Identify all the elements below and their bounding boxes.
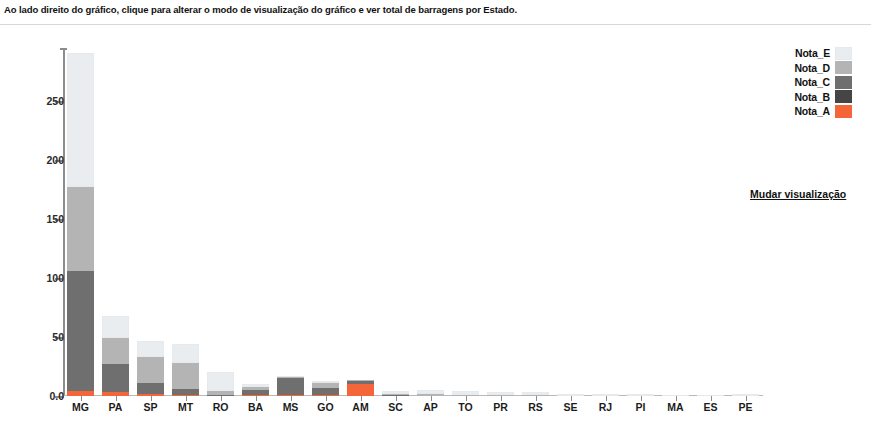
- change-visualization-link[interactable]: Mudar visualização: [750, 188, 846, 200]
- chart-plot-area: 0.050100150200250 MGPASPMTROBAMSGOAMSCAP…: [0, 26, 871, 444]
- instruction-text: Ao lado direito do gráfico, clique para …: [4, 4, 517, 15]
- header-divider: [0, 24, 871, 25]
- bar-segment-MS-Nota_C[interactable]: [277, 378, 304, 395]
- chart-legend: Nota_ENota_DNota_CNota_BNota_A: [752, 46, 852, 119]
- bar-segment-PA-Nota_E[interactable]: [102, 316, 129, 338]
- bar-series-group: [63, 26, 763, 396]
- x-axis-label-MG: MG: [63, 401, 98, 413]
- bar-segment-PA-Nota_D[interactable]: [102, 338, 129, 364]
- bar-segment-SP-Nota_E[interactable]: [137, 341, 164, 358]
- bar-segment-MT-Nota_D[interactable]: [172, 363, 199, 389]
- bar-AM[interactable]: [347, 380, 374, 397]
- x-axis-label-TO: TO: [448, 401, 483, 413]
- legend-item-Nota_C[interactable]: Nota_C: [752, 75, 852, 90]
- bar-segment-MG-Nota_D[interactable]: [67, 187, 94, 271]
- bar-segment-MG-Nota_C[interactable]: [67, 271, 94, 391]
- y-tick-label: 200: [24, 154, 64, 166]
- bar-segment-PA-Nota_C[interactable]: [102, 364, 129, 392]
- y-tick-label: 100: [24, 272, 64, 284]
- y-tick-label: 250: [24, 95, 64, 107]
- bar-segment-SP-Nota_C[interactable]: [137, 383, 164, 394]
- legend-label: Nota_D: [794, 62, 830, 74]
- legend-swatch-Nota_A: [835, 105, 852, 118]
- bar-segment-SP-Nota_D[interactable]: [137, 357, 164, 383]
- legend-label: Nota_A: [794, 105, 830, 117]
- x-axis-label-ES: ES: [693, 401, 728, 413]
- bar-MS[interactable]: [277, 376, 304, 396]
- legend-swatch-Nota_B: [835, 90, 852, 103]
- legend-swatch-Nota_E: [835, 47, 852, 60]
- x-axis-label-PE: PE: [728, 401, 763, 413]
- x-axis-label-RS: RS: [518, 401, 553, 413]
- y-tick-label: 0.0: [24, 390, 64, 402]
- bar-MG[interactable]: [67, 53, 94, 396]
- x-axis-label-AP: AP: [413, 401, 448, 413]
- header-bar: Ao lado direito do gráfico, clique para …: [0, 0, 871, 26]
- x-axis-label-SC: SC: [378, 401, 413, 413]
- legend-item-Nota_A[interactable]: Nota_A: [752, 104, 852, 119]
- bar-segment-MG-Nota_E[interactable]: [67, 53, 94, 187]
- bar-SP[interactable]: [137, 341, 164, 396]
- bar-segment-RO-Nota_E[interactable]: [207, 372, 234, 391]
- x-axis-label-RJ: RJ: [588, 401, 623, 413]
- x-axis-label-AM: AM: [343, 401, 378, 413]
- legend-label: Nota_C: [794, 76, 830, 88]
- bar-BA[interactable]: [242, 384, 269, 396]
- x-axis-label-MT: MT: [168, 401, 203, 413]
- x-axis-label-MA: MA: [658, 401, 693, 413]
- x-axis-label-SP: SP: [133, 401, 168, 413]
- x-axis-label-BA: BA: [238, 401, 273, 413]
- bar-segment-GO-Nota_C[interactable]: [312, 388, 339, 395]
- y-tick-label: 50: [24, 331, 64, 343]
- y-tick-label: 150: [24, 213, 64, 225]
- bar-PA[interactable]: [102, 316, 129, 396]
- bar-GO[interactable]: [312, 381, 339, 396]
- legend-label: Nota_E: [795, 47, 830, 59]
- legend-item-Nota_D[interactable]: Nota_D: [752, 61, 852, 76]
- legend-item-Nota_B[interactable]: Nota_B: [752, 90, 852, 105]
- x-axis-label-PI: PI: [623, 401, 658, 413]
- x-axis-label-GO: GO: [308, 401, 343, 413]
- x-axis-label-SE: SE: [553, 401, 588, 413]
- legend-item-Nota_E[interactable]: Nota_E: [752, 46, 852, 61]
- x-axis-label-PR: PR: [483, 401, 518, 413]
- bar-segment-AM-Nota_A[interactable]: [347, 384, 374, 396]
- legend-label: Nota_B: [794, 91, 830, 103]
- bar-MT[interactable]: [172, 344, 199, 396]
- bar-segment-MT-Nota_E[interactable]: [172, 344, 199, 363]
- legend-swatch-Nota_C: [835, 76, 852, 89]
- x-axis-label-RO: RO: [203, 401, 238, 413]
- x-axis-label-PA: PA: [98, 401, 133, 413]
- x-axis-label-MS: MS: [273, 401, 308, 413]
- bar-RO[interactable]: [207, 372, 234, 396]
- legend-swatch-Nota_D: [835, 61, 852, 74]
